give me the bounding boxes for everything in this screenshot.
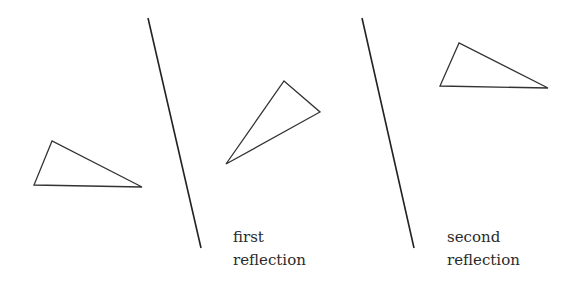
second-reflection-label-line1: second: [447, 226, 520, 249]
first-mirror-line: [148, 18, 201, 248]
second-reflection-label: second reflection: [447, 226, 520, 272]
first-reflection-label-line1: first: [233, 226, 306, 249]
first-reflected-triangle: [226, 81, 320, 164]
first-reflection-label: first reflection: [233, 226, 306, 272]
first-reflection-label-line2: reflection: [233, 249, 306, 272]
second-mirror-line: [362, 18, 414, 248]
second-reflection-label-line2: reflection: [447, 249, 520, 272]
second-reflected-triangle: [440, 43, 548, 88]
original-triangle: [34, 141, 142, 187]
